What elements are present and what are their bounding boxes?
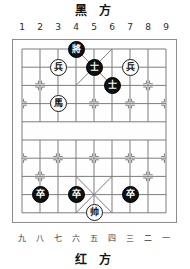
file-label: 二 — [141, 233, 155, 245]
red-pawn-right[interactable]: 兵 — [122, 59, 139, 76]
file-label: 四 — [105, 233, 119, 245]
black-side-title: 黑 方 — [0, 1, 190, 18]
file-label: 4 — [69, 21, 83, 33]
black-pawn-2[interactable]: 卒 — [68, 186, 85, 203]
file-label: 2 — [33, 21, 47, 33]
black-advisor-2[interactable]: 士 — [104, 77, 121, 94]
xiangqi-screenshot: 黑 方 123456789 將兵士兵士馬卒卒卒帅 九八七六五四三二一 红 方 — [0, 0, 190, 269]
file-label: 九 — [15, 233, 29, 245]
red-side-title: 红 方 — [0, 250, 190, 267]
file-label: 一 — [159, 233, 173, 245]
red-general[interactable]: 帅 — [86, 204, 103, 221]
black-advisor-1[interactable]: 士 — [86, 59, 103, 76]
file-label: 七 — [51, 233, 65, 245]
file-label: 八 — [33, 233, 47, 245]
file-label: 六 — [69, 233, 83, 245]
file-label: 6 — [105, 21, 119, 33]
black-general[interactable]: 將 — [68, 41, 85, 58]
top-file-labels: 123456789 — [0, 21, 190, 33]
black-pawn-3[interactable]: 卒 — [122, 186, 139, 203]
xiangqi-board[interactable]: 將兵士兵士馬卒卒卒帅 — [12, 39, 178, 224]
red-horse[interactable]: 馬 — [50, 95, 67, 112]
red-pawn-left[interactable]: 兵 — [50, 59, 67, 76]
file-label: 5 — [87, 21, 101, 33]
file-label: 五 — [87, 233, 101, 245]
file-label: 3 — [51, 21, 65, 33]
file-label: 三 — [123, 233, 137, 245]
bottom-file-labels: 九八七六五四三二一 — [0, 233, 190, 245]
file-label: 7 — [123, 21, 137, 33]
file-label: 8 — [141, 21, 155, 33]
file-label: 1 — [15, 21, 29, 33]
black-pawn-1[interactable]: 卒 — [32, 186, 49, 203]
file-label: 9 — [159, 21, 173, 33]
